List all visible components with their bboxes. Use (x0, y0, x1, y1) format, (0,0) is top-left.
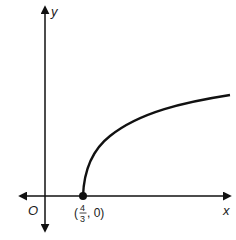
x-axis-label: x (222, 203, 230, 218)
start-point (79, 192, 87, 200)
function-graph: y x O ( 4 3 , 0) (0, 0, 236, 240)
point-label-denominator: 3 (80, 214, 85, 224)
sqrt-curve (83, 95, 230, 196)
point-label-open: ( (74, 206, 78, 220)
point-label-numerator: 4 (80, 203, 85, 213)
point-label-close: , 0) (87, 206, 104, 220)
origin-label: O (28, 203, 38, 218)
y-axis-label: y (50, 4, 59, 19)
